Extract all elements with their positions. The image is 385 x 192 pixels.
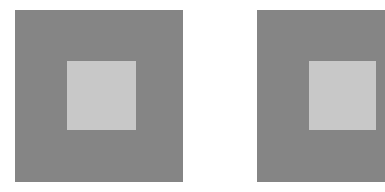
right-inner-square	[309, 61, 376, 130]
left-inner-square	[67, 61, 136, 130]
